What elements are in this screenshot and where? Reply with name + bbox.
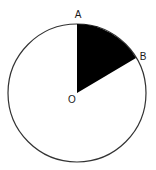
label-o: O bbox=[68, 94, 76, 105]
sector-diagram: A B O bbox=[0, 0, 156, 170]
label-a: A bbox=[75, 9, 82, 20]
label-b: B bbox=[140, 51, 147, 62]
